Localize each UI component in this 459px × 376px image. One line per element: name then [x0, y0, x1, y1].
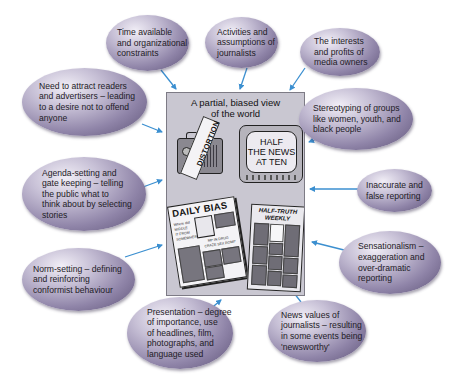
bubble-text: Presentation – degree of importance, use… [147, 307, 232, 360]
weekly-block [253, 223, 269, 246]
bubble-inaccurate-reporting: Inaccurate and false reporting [357, 169, 432, 212]
bubble-text: Stereotyping of groups like women, youth… [313, 103, 401, 135]
bubble-text: Inaccurate and false reporting [366, 180, 423, 201]
newspaper-daily-bias: DAILY BIAS Where did MIDDLE IT FROM SOME… [167, 196, 247, 288]
bubble-text: Norm-setting – defining and reinforcing … [33, 264, 122, 296]
arrow-time [161, 70, 176, 89]
bubble-line: and reinforcing [33, 274, 122, 285]
bubble-line: language used [147, 349, 232, 360]
bubble-line: reporting [358, 273, 424, 284]
bubble-line: Activities and [217, 27, 275, 38]
arrow-norm [125, 245, 162, 257]
tv-line-1: HALF [260, 137, 283, 147]
bubble-text: Agenda-setting and gate keeping – tellin… [42, 168, 132, 221]
bubble-stereotyping: Stereotyping of groups like women, youth… [299, 88, 413, 150]
bubble-line: the public what to [42, 189, 132, 200]
bubble-line: Agenda-setting and [42, 168, 132, 179]
weekly-block [252, 246, 268, 265]
bubble-line: anyone [39, 113, 135, 124]
bubble-line: think about by selecting [42, 199, 132, 210]
bubble-text: Sensationalism – exaggeration and over-d… [358, 241, 424, 283]
weekly-block [282, 274, 298, 288]
weekly-block [269, 243, 284, 256]
arrow-sensationalism [312, 242, 344, 250]
bubble-line: Stereotyping of groups [313, 103, 401, 114]
weekly-block [284, 224, 301, 257]
tv-screen: HALF THE NEWS AT TEN [246, 131, 297, 173]
bubble-line: exaggeration and [358, 252, 424, 263]
central-title: A partial, biased view of the world [167, 97, 304, 119]
bubble-line: gate keeping – telling [42, 178, 132, 189]
central-illustration: A partial, biased view of the world DIST… [166, 92, 305, 296]
bubble-media-owners: The interests and profits of media owner… [300, 28, 380, 76]
arrow-agenda [143, 180, 162, 187]
bubble-line: Norm-setting – defining [33, 264, 122, 275]
weekly-block [283, 257, 299, 274]
paper-block [178, 245, 205, 283]
bubble-journalist-activities: Activities and assumptions of journalist… [205, 17, 278, 68]
bubble-line: false reporting [366, 191, 423, 202]
bubble-line: and advertisers – leading [39, 91, 135, 102]
bubble-line: The interests [314, 36, 368, 47]
bubble-presentation: Presentation – degree of importance, use… [127, 297, 233, 369]
newspaper-half-truth-weekly: HALF-TRUTH WEEKLY [247, 204, 305, 293]
bubble-line: constraints [117, 48, 187, 59]
bubble-line: Presentation – degree [147, 307, 232, 318]
bubble-news-values: News values of journalists – resulting i… [268, 300, 366, 362]
bubble-line: and organizational [117, 38, 187, 49]
bubble-text: The interests and profits of media owner… [314, 36, 368, 68]
bubble-line: to a desire not to offend [39, 102, 135, 113]
central-title-line2: of the world [167, 108, 304, 119]
bubble-text: News values of journalists – resulting i… [281, 310, 362, 352]
bubble-attract-readers: Need to attract readers and advertisers … [22, 68, 147, 136]
paper-block [205, 265, 225, 281]
bubble-line: journalists – resulting [281, 320, 362, 331]
bubble-line: and profits of [314, 47, 368, 58]
bubble-line: Inaccurate and [366, 180, 423, 191]
weekly-block [268, 256, 283, 271]
bubble-line: black people [313, 124, 401, 135]
bubble-sensationalism: Sensationalism – exaggeration and over-d… [339, 231, 441, 294]
central-title-line1: A partial, biased view [167, 97, 304, 108]
paper-block [214, 211, 236, 228]
tv-line-2: THE NEWS [248, 147, 296, 157]
bubble-line: 'newsworthy' [281, 342, 362, 353]
bubble-line: of headlines, film, [147, 328, 232, 339]
bubble-line: stories [42, 210, 132, 221]
bubble-norm-setting: Norm-setting – defining and reinforcing … [22, 248, 135, 311]
bubble-line: media owners [314, 57, 368, 68]
bubble-line: Sensationalism – [358, 241, 424, 252]
bubble-line: of importance, use [147, 317, 232, 328]
tv-vent [246, 175, 296, 180]
bubble-line: in some events being [281, 331, 362, 342]
bubble-agenda-setting: Agenda-setting and gate keeping – tellin… [22, 157, 146, 231]
paper-photo [194, 215, 215, 239]
bubble-line: assumptions of [217, 37, 275, 48]
bubble-line: journalists [217, 48, 275, 59]
weekly-masthead: HALF-TRUTH WEEKLY [251, 207, 304, 224]
bubble-line: photographs, and [147, 338, 232, 349]
weekly-block [251, 265, 267, 286]
bubble-time-constraints: Time available and organizational constr… [106, 15, 189, 71]
weekly-photo [269, 224, 284, 243]
weekly-block [267, 271, 282, 287]
bubble-line: like women, youth, and [313, 114, 401, 125]
arrow-readers [142, 124, 162, 132]
bubble-text: Activities and assumptions of journalist… [217, 27, 275, 59]
bubble-line: over-dramatic [358, 263, 424, 274]
bubble-line: Time available [117, 27, 187, 38]
bubble-text: Time available and organizational constr… [117, 27, 187, 59]
arrow-owners [290, 68, 305, 90]
bubble-text: Need to attract readers and advertisers … [39, 81, 135, 123]
paper-block [221, 246, 241, 265]
bubble-line: Need to attract readers [39, 81, 135, 92]
television-icon: HALF THE NEWS AT TEN [239, 125, 303, 183]
tv-line-3: AT TEN [256, 157, 287, 167]
bubble-line: News values of [281, 310, 362, 321]
bubble-line: conformist behaviour [33, 285, 122, 296]
arrow-activities [240, 68, 247, 89]
